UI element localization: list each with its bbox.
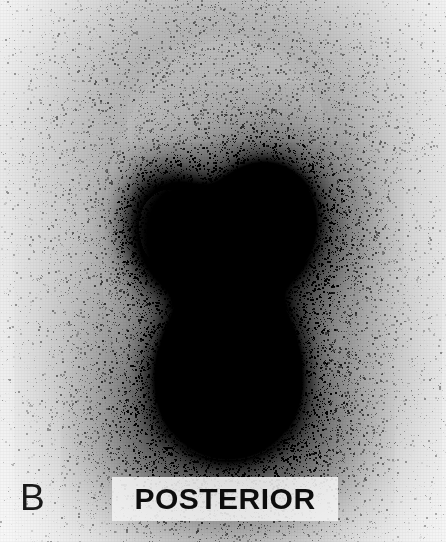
panel-letter-b: B: [20, 479, 45, 516]
scintigram-image: [0, 0, 446, 542]
orientation-label-posterior: POSTERIOR: [112, 477, 338, 521]
scintigram-scan-field: [0, 0, 446, 542]
figure-panel: B POSTERIOR: [0, 0, 446, 542]
